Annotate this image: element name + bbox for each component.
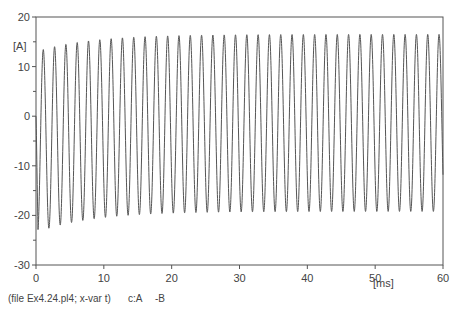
x-tick-label: 60: [437, 272, 449, 284]
file-info-caption: (file Ex4.24.pl4; x-var t): [8, 293, 111, 304]
x-tick-label: 30: [233, 272, 245, 284]
x-tick-label: 0: [33, 272, 39, 284]
curve-label: c:A: [128, 293, 142, 304]
y-tick-label: -10: [14, 160, 30, 172]
x-tick-label: 10: [98, 272, 110, 284]
y-tick-label: 0: [24, 110, 30, 122]
series-line: [36, 34, 443, 229]
y-tick-label: 20: [18, 11, 30, 23]
x-tick-label: 20: [166, 272, 178, 284]
x-axis-unit: [ms]: [373, 277, 394, 289]
line-chart: -30-20-1001020 0102030405060 [A] [ms]: [0, 0, 467, 315]
y-axis-unit: [A]: [13, 40, 26, 52]
curve-reference: -B: [155, 293, 165, 304]
y-tick-label: -30: [14, 259, 30, 271]
y-tick-label: -20: [14, 209, 30, 221]
y-tick-label: 10: [18, 61, 30, 73]
x-tick-label: 40: [301, 272, 313, 284]
